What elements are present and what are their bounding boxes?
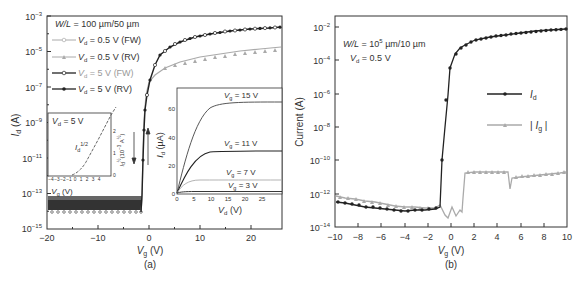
- svg-text:2: 2: [471, 232, 476, 242]
- svg-text:−3: −3: [54, 177, 60, 182]
- svg-text:Vg = 7 V: Vg = 7 V: [226, 168, 256, 178]
- svg-text:0: 0: [113, 172, 116, 178]
- svg-text:10: 10: [562, 232, 572, 242]
- svg-text:2: 2: [86, 177, 89, 182]
- svg-text:−4: −4: [48, 177, 54, 182]
- svg-text:0: 0: [74, 177, 77, 182]
- svg-text:−20: −20: [39, 233, 54, 243]
- panel-a-caption: (a): [144, 259, 156, 270]
- panel-b-y-ticks: 10−2 10−4 10−6 10−8 10−10 10−12 10−14: [310, 22, 331, 233]
- panel-b: 10−2 10−4 10−6 10−8 10−10 10−12 10−14 −1…: [294, 16, 572, 270]
- svg-text:10−7: 10−7: [25, 82, 43, 93]
- svg-text:Vg = 3 V: Vg = 3 V: [228, 181, 258, 191]
- svg-text:Vd = 0.5 V (RV): Vd = 0.5 V (RV): [78, 52, 139, 63]
- svg-text:40: 40: [168, 135, 175, 141]
- inset-vd-label: Vd = 5 V: [52, 116, 84, 127]
- svg-text:1: 1: [80, 177, 83, 182]
- svg-text:10−6: 10−6: [313, 89, 331, 100]
- svg-text:0: 0: [146, 233, 151, 243]
- panel-b-y-label: Current (A): [294, 97, 305, 146]
- svg-text:10: 10: [208, 196, 215, 202]
- svg-text:10−2: 10−2: [313, 22, 331, 33]
- svg-text:6: 6: [518, 232, 523, 242]
- panel-a-y-ticks: 10−3 10−5 10−7 10−9 10−11 10−13 10−15: [22, 11, 43, 234]
- svg-text:10−8: 10−8: [313, 122, 331, 133]
- panel-b-wl-annotation: W/L = 105 µm/10 µm: [343, 38, 426, 49]
- svg-text:20: 20: [242, 196, 249, 202]
- svg-text:−4: −4: [400, 232, 410, 242]
- svg-text:2: 2: [113, 128, 116, 134]
- panel-a-wl-annotation: W/L = 100 µm/50 µm: [55, 19, 139, 29]
- svg-text:0: 0: [448, 232, 453, 242]
- panel-a: 10−3 10−5 10−7 10−9 10−11 10−13 10−15 −2…: [10, 11, 282, 270]
- svg-text:4: 4: [98, 177, 101, 182]
- svg-text:60: 60: [168, 106, 175, 112]
- svg-text:10−12: 10−12: [310, 189, 331, 200]
- svg-text:10−13: 10−13: [22, 188, 43, 199]
- svg-text:Vd (V): Vd (V): [218, 205, 242, 216]
- svg-text:Vg = 11 V: Vg = 11 V: [224, 139, 258, 149]
- panel-b-x-label: Vg (V): [438, 245, 465, 258]
- svg-text:−2: −2: [60, 177, 66, 182]
- svg-text:1: 1: [113, 150, 116, 156]
- svg-text:10−11: 10−11: [22, 153, 42, 164]
- svg-text:10−9: 10−9: [25, 117, 43, 128]
- svg-text:−10: −10: [327, 232, 342, 242]
- svg-text:10: 10: [195, 233, 205, 243]
- panel-a-y-label: Id (A): [10, 114, 22, 137]
- svg-text:10−10: 10−10: [310, 155, 331, 166]
- figure: 10−3 10−5 10−7 10−9 10−11 10−13 10−15 −2…: [0, 0, 584, 285]
- svg-text:20: 20: [246, 233, 256, 243]
- svg-text:−6: −6: [376, 232, 386, 242]
- svg-text:20: 20: [168, 163, 175, 169]
- svg-text:−1: −1: [66, 177, 72, 182]
- svg-text:8: 8: [541, 232, 546, 242]
- svg-text:10−3: 10−3: [25, 11, 43, 22]
- svg-text:−10: −10: [90, 233, 105, 243]
- svg-text:Vg = 15 V: Vg = 15 V: [224, 91, 259, 101]
- svg-text:−8: −8: [353, 232, 363, 242]
- svg-text:10−4: 10−4: [313, 55, 331, 66]
- svg-text:3: 3: [92, 177, 95, 182]
- svg-text:Vd = 0.5 V (FW): Vd = 0.5 V (FW): [78, 35, 141, 46]
- panel-b-caption: (b): [445, 259, 457, 270]
- svg-text:10−5: 10−5: [25, 46, 43, 57]
- svg-text:Vg (V): Vg (V): [51, 187, 73, 197]
- svg-text:−2: −2: [423, 232, 433, 242]
- svg-text:15: 15: [225, 196, 232, 202]
- svg-text:4: 4: [494, 232, 499, 242]
- panel-a-x-label: Vg (V): [137, 245, 164, 258]
- svg-text:25: 25: [259, 196, 266, 202]
- panel-b-x-ticks: −10−8−6−4 −2024 6810: [327, 232, 572, 242]
- panel-a-x-ticks: −20 −10 0 10 20: [39, 233, 256, 243]
